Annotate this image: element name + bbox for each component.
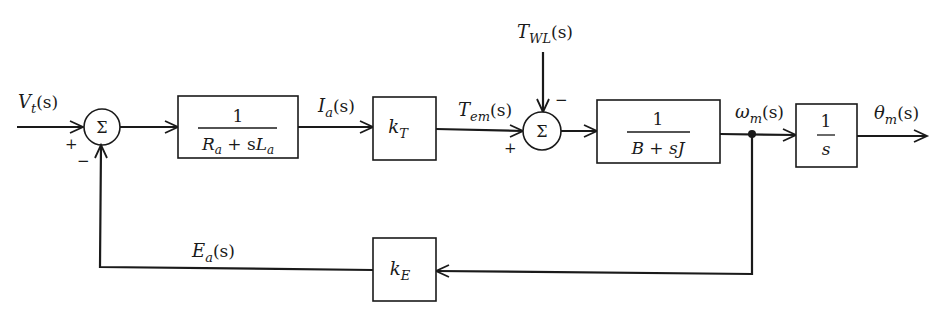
block-integrator: 1 s xyxy=(796,104,857,167)
vt-arg: (s) xyxy=(36,92,58,112)
sum1-minus-sign: − xyxy=(77,152,90,170)
mechanical-numerator: 1 xyxy=(653,109,664,129)
signal-tem: Tem(s) xyxy=(458,99,512,124)
signal-theta: θm(s) xyxy=(874,102,919,127)
signal-twl: TWL(s) xyxy=(517,21,573,46)
block-mechanical: 1 B + sJ xyxy=(597,100,720,163)
input-signal-vt: Vt(s) xyxy=(17,91,83,133)
svg-text:Vt(s): Vt(s) xyxy=(18,91,58,116)
integrator-numerator: 1 xyxy=(821,111,832,131)
summing-junction-1: Σ + − xyxy=(65,109,120,170)
armature-denominator: Ra + sLa xyxy=(201,134,274,157)
signal-ea: Ea(s) xyxy=(191,240,235,265)
sum2-plus-sign: + xyxy=(504,139,517,157)
block-armature: 1 Ra + sLa xyxy=(178,96,298,158)
sum1-plus-sign: + xyxy=(65,135,78,153)
signal-omega: ωm(s) xyxy=(735,101,784,126)
armature-numerator: 1 xyxy=(233,106,244,126)
signal-ia: Ia(s) xyxy=(317,95,355,120)
block-torque-constant: kT xyxy=(373,97,436,160)
summing-junction-2: Σ + − xyxy=(504,91,568,157)
sum2-minus-sign: − xyxy=(555,91,568,109)
mechanical-denominator: B + sJ xyxy=(630,138,685,158)
sigma-icon: Σ xyxy=(536,122,547,141)
dc-motor-block-diagram: Vt(s) Σ + − 1 Ra + sLa Ia(s) kT Tem(s) T… xyxy=(0,0,937,318)
integrator-denominator: s xyxy=(822,139,831,159)
sigma-icon: Σ xyxy=(96,118,107,137)
